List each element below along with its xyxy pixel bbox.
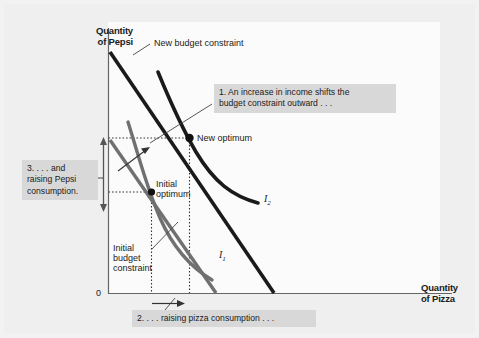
pizza-increase-arrowhead — [177, 300, 185, 307]
initial-budget-label-line2: budget — [113, 253, 152, 263]
pepsi-increase-arrowhead-top — [100, 137, 107, 145]
initial-budget-constraint-label: Initial budget constraint — [113, 243, 152, 273]
x-axis-title-line2: of Pizza — [421, 294, 458, 305]
initial-optimum-point — [148, 188, 155, 195]
x-axis-title: Quantity of Pizza — [421, 283, 458, 304]
initial-optimum-label-line2: optimum — [156, 189, 191, 199]
curve-label-i2-subscript: 2 — [267, 199, 271, 207]
origin-label: 0 — [96, 288, 101, 298]
initial-optimum-label: Initial optimum — [156, 179, 191, 199]
initial-optimum-label-line1: Initial — [156, 179, 191, 189]
initial-budget-label-line3: constraint — [113, 263, 152, 273]
curve-label-i1: I1 — [219, 249, 226, 264]
new-budget-constraint-label: New budget constraint — [154, 38, 244, 48]
leader-new-budget-constraint — [133, 44, 150, 55]
callout-income-increase: 1. An increase in income shifts the budg… — [214, 84, 396, 113]
y-axis-title: Quantity of Pepsi — [96, 26, 133, 47]
initial-budget-label-line1: Initial — [113, 243, 152, 253]
callout-pepsi-consumption: 3. . . . and raising Pepsi consumption. — [22, 160, 98, 200]
figure-container: Quantity of Pepsi Quantity of Pizza 0 Ne… — [0, 0, 479, 338]
callout-pizza-consumption: 2. . . . raising pizza consumption . . . — [132, 310, 316, 327]
pepsi-increase-arrowhead-bottom — [100, 204, 107, 212]
new-optimum-label: New optimum — [197, 133, 252, 143]
new-optimum-point — [185, 134, 193, 142]
curve-label-i1-subscript: 1 — [222, 255, 226, 263]
curve-label-i2: I2 — [264, 193, 271, 208]
y-axis-title-line2: of Pepsi — [96, 37, 133, 48]
